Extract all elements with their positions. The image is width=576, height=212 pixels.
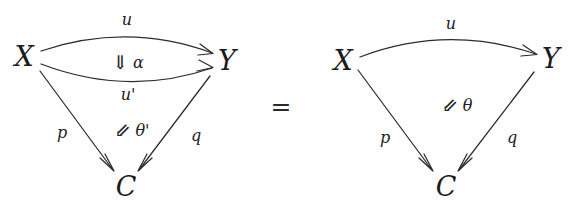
left-object-X: X [14,43,33,70]
double-down-left-arrow-icon: ⇙ [115,121,131,140]
left-two-cell-theta-prime-label: θ' [135,122,149,138]
double-down-left-arrow-icon: ⇙ [442,96,458,115]
right-edge-label-q: q [507,130,517,146]
double-down-arrow-icon: ⇓ [112,53,128,72]
right-arrow-u [360,40,537,57]
left-edge-label-u-prime: u' [121,87,136,103]
right-object-Y: Y [542,45,560,72]
right-object-C: C [436,173,457,200]
right-arrow-p [358,70,433,171]
left-arrow-p [40,71,114,171]
left-object-Y: Y [218,47,236,74]
right-two-cell-theta: ⇙ θ [442,96,473,115]
left-edge-label-u: u [122,12,132,28]
right-edge-label-p: p [380,130,390,146]
left-two-cell-alpha-label: α [133,54,144,70]
right-edge-label-u: u [446,16,456,32]
right-two-cell-theta-label: θ [463,97,473,113]
right-object-X: X [333,47,352,74]
right-arrow-q [458,72,534,171]
left-two-cell-theta-prime: ⇙ θ' [115,121,150,140]
equals-sign: = [271,94,292,119]
left-edge-label-q: q [191,128,201,144]
left-object-C: C [116,173,137,200]
left-edge-label-p: p [57,125,67,141]
left-two-cell-alpha: ⇓ α [112,53,144,72]
category-theory-diagram: X Y C u u' p q ⇓ α ⇙ θ' = X Y C u p q ⇙ … [0,0,576,212]
